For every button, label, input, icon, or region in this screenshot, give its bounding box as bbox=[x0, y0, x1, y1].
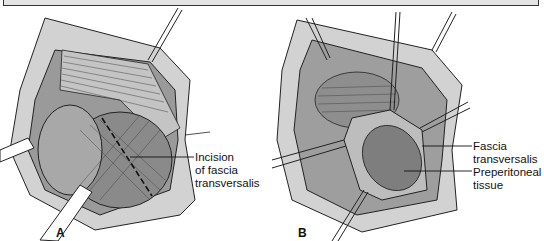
surgical-illustration-b bbox=[272, 8, 544, 241]
panel-a: Incision of fascia transversalis A bbox=[0, 8, 272, 241]
annotation-line: Fascia bbox=[473, 140, 538, 153]
annotation-line: transversalis bbox=[473, 153, 538, 166]
annotation-preperitoneal-tissue: Preperitoneal tissue bbox=[473, 166, 541, 192]
annotation-incision-of-fascia-transversalis: Incision of fascia transversalis bbox=[195, 151, 260, 190]
caption-box bbox=[3, 0, 539, 6]
panel-b: Fascia transversalis Preperitoneal tissu… bbox=[272, 8, 544, 241]
annotation-line: Incision bbox=[195, 151, 260, 164]
annotation-line: Preperitoneal bbox=[473, 166, 541, 179]
annotation-fascia-transversalis: Fascia transversalis bbox=[473, 140, 538, 166]
annotation-line: of fascia bbox=[195, 164, 260, 177]
surgical-illustration-a bbox=[0, 8, 272, 241]
annotation-line: tissue bbox=[473, 179, 541, 192]
panel-label-a: A bbox=[56, 226, 65, 240]
panel-label-b: B bbox=[298, 226, 307, 240]
annotation-line: transversalis bbox=[195, 177, 260, 190]
